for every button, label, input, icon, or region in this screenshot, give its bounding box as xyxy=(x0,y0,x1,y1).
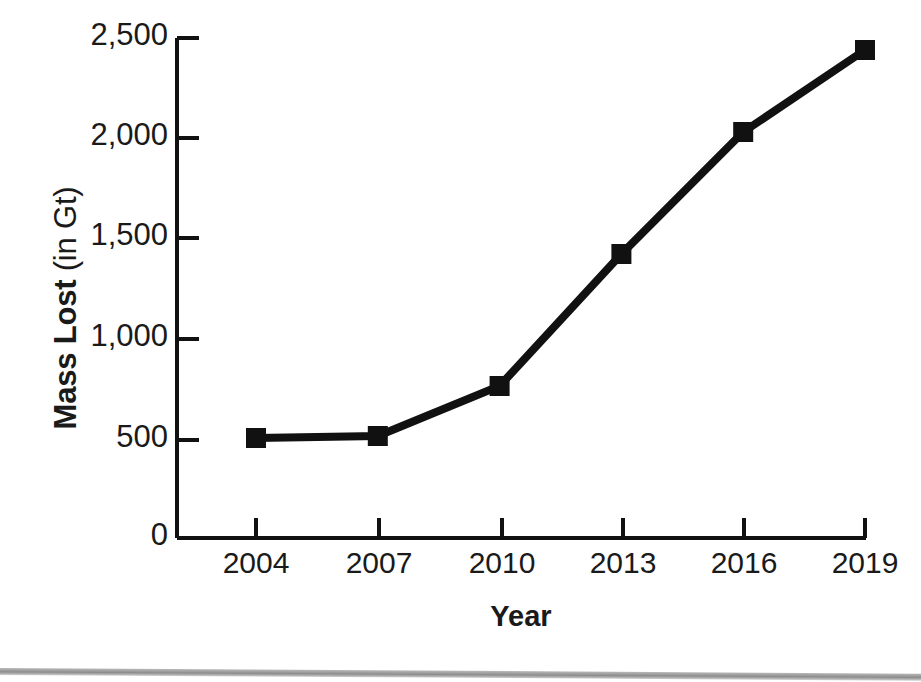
data-markers xyxy=(246,40,875,448)
data-point-2013 xyxy=(611,244,631,264)
data-point-2010 xyxy=(490,376,510,396)
y-tick-marks xyxy=(177,38,199,440)
chart-figure: Mass Lost (in Gt) 2,500 2,000 1,500 1,00… xyxy=(0,0,921,682)
data-point-2019 xyxy=(855,40,875,60)
data-line-mass-lost xyxy=(256,50,865,438)
data-point-2007 xyxy=(368,426,388,446)
plot-area xyxy=(0,0,921,682)
x-tick-marks xyxy=(256,518,865,538)
x-axis-title: Year xyxy=(177,600,865,633)
data-point-2004 xyxy=(246,428,266,448)
data-point-2016 xyxy=(733,122,753,142)
